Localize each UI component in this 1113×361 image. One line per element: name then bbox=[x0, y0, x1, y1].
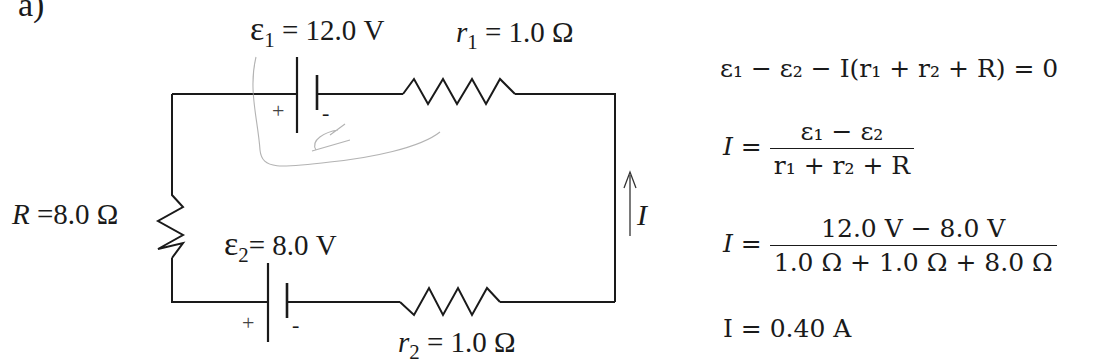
emf2-value: = 8.0 V bbox=[249, 229, 337, 261]
emf2-symbol: ε bbox=[224, 225, 238, 262]
current-label: I bbox=[637, 198, 647, 232]
substitution-fraction: 12.0 V − 8.0 V 1.0 Ω + 1.0 Ω + 8.0 Ω bbox=[770, 214, 1057, 277]
R-label: R =8.0 Ω bbox=[12, 198, 118, 231]
equation-substitution: I = 12.0 V − 8.0 V 1.0 Ω + 1.0 Ω + 8.0 Ω bbox=[723, 214, 1057, 277]
emf1-label: ε1 = 12.0 V bbox=[250, 10, 385, 48]
equation-loop-rule: ε₁ − ε₂ − I(r₁ + r₂ + R) = 0 bbox=[720, 54, 1058, 83]
r1-symbol: r bbox=[456, 16, 467, 48]
solve-lhs: I = bbox=[723, 132, 762, 161]
r1-value: = 1.0 Ω bbox=[485, 16, 574, 48]
equation-result: I = 0.40 A bbox=[723, 314, 851, 343]
emf1-symbol: ε bbox=[250, 10, 264, 47]
emf1-value: = 12.0 V bbox=[282, 14, 385, 46]
solve-denominator: r₁ + r₂ + R bbox=[770, 151, 914, 180]
resistor-r2 bbox=[400, 288, 500, 315]
resistor-R bbox=[158, 94, 183, 258]
substitution-denominator: 1.0 Ω + 1.0 Ω + 8.0 Ω bbox=[770, 248, 1057, 277]
emf1-subscript: 1 bbox=[264, 28, 274, 52]
substitution-lhs: I = bbox=[723, 229, 762, 258]
emf2-label: ε2= 8.0 V bbox=[224, 225, 337, 263]
diagram-canvas: a) bbox=[0, 0, 1113, 361]
R-value: =8.0 Ω bbox=[30, 198, 119, 230]
r1-subscript: 1 bbox=[467, 30, 477, 54]
substitution-numerator: 12.0 V − 8.0 V bbox=[770, 214, 1057, 243]
fraction-bar bbox=[770, 245, 1057, 246]
emf2-subscript: 2 bbox=[238, 243, 248, 267]
battery1-plus-sign: + bbox=[272, 98, 284, 124]
r2-label: r2 = 1.0 Ω bbox=[398, 326, 516, 359]
fraction-bar bbox=[770, 148, 914, 149]
equation-solve-for-current: I = ε₁ − ε₂ r₁ + r₂ + R bbox=[723, 117, 914, 180]
battery2-plus-sign: + bbox=[242, 310, 254, 336]
r2-value: = 1.0 Ω bbox=[427, 326, 516, 358]
R-symbol: R bbox=[12, 198, 30, 230]
solve-fraction: ε₁ − ε₂ r₁ + r₂ + R bbox=[770, 117, 914, 180]
r2-symbol: r bbox=[398, 326, 409, 358]
r1-label: r1 = 1.0 Ω bbox=[456, 16, 574, 49]
solve-numerator: ε₁ − ε₂ bbox=[770, 117, 914, 146]
resistor-r1 bbox=[403, 79, 515, 104]
battery2-minus-sign: - bbox=[292, 312, 299, 338]
r2-subscript: 2 bbox=[409, 340, 419, 361]
battery1-minus-sign: - bbox=[322, 100, 329, 126]
